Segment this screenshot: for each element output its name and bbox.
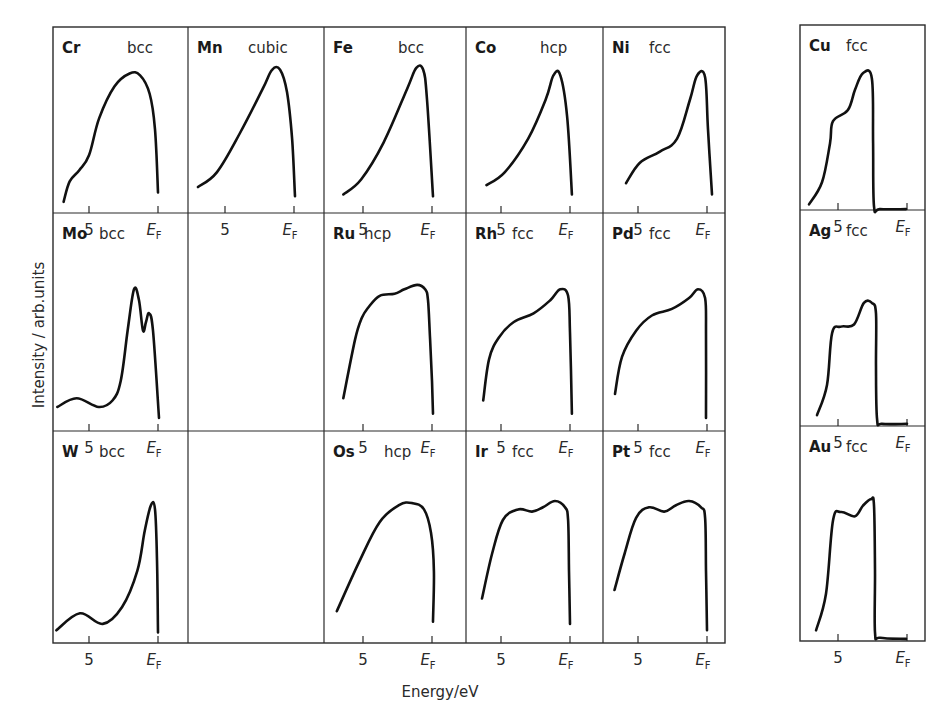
element-label-ag: Ag xyxy=(809,222,831,240)
tick-label-5: 5 xyxy=(833,649,843,667)
spectrum-curve-cu xyxy=(809,70,906,212)
spectrum-curve-co xyxy=(487,71,572,194)
structure-label-ni: fcc xyxy=(649,39,671,57)
tick-label-fermi-subscript: F xyxy=(430,660,436,671)
y-axis-label: Intensity / arb.units xyxy=(30,262,48,409)
structure-label-rh: fcc xyxy=(512,225,534,243)
tick-label-fermi: EF xyxy=(420,221,435,241)
spectrum-curve-rh xyxy=(483,289,572,414)
side-frame xyxy=(800,25,925,641)
tick-label-fermi: EF xyxy=(558,221,573,241)
structure-label-pd: fcc xyxy=(649,225,671,243)
tick-label-fermi-subscript: F xyxy=(905,227,911,238)
element-label-au: Au xyxy=(809,438,831,456)
tick-label-5: 5 xyxy=(633,439,643,457)
tick-label-fermi: EF xyxy=(895,434,910,454)
tick-label-fermi: EF xyxy=(695,439,710,459)
spectrum-curve-os xyxy=(337,503,434,622)
structure-label-pt: fcc xyxy=(649,443,671,461)
tick-label-fermi-subscript: F xyxy=(705,448,711,459)
element-label-mo: Mo xyxy=(62,225,87,243)
tick-label-fermi: EF xyxy=(146,221,161,241)
tick-label-fermi-subscript: F xyxy=(905,443,911,454)
spectrum-curve-ru xyxy=(343,285,433,414)
tick-label-5: 5 xyxy=(833,218,843,236)
tick-label-fermi: EF xyxy=(695,651,710,671)
tick-label-fermi: EF xyxy=(282,221,297,241)
spectrum-curve-fe xyxy=(343,65,433,196)
tick-label-fermi: EF xyxy=(895,218,910,238)
structure-label-cu: fcc xyxy=(846,37,868,55)
tick-label-fermi-subscript: F xyxy=(430,230,436,241)
spectrum-curve-pt xyxy=(615,501,708,630)
tick-label-fermi: EF xyxy=(558,439,573,459)
tick-label-5: 5 xyxy=(633,651,643,669)
element-label-cr: Cr xyxy=(62,39,81,57)
tick-label-5: 5 xyxy=(84,439,94,457)
tick-label-fermi: EF xyxy=(420,651,435,671)
structure-label-ir: fcc xyxy=(512,443,534,461)
element-label-os: Os xyxy=(333,443,355,461)
tick-label-5: 5 xyxy=(358,439,368,457)
structure-label-mo: bcc xyxy=(99,225,125,243)
tick-label-fermi-subscript: F xyxy=(156,230,162,241)
tick-label-fermi-subscript: F xyxy=(156,448,162,459)
tick-label-fermi: EF xyxy=(558,651,573,671)
tick-label-5: 5 xyxy=(496,651,506,669)
tick-label-5: 5 xyxy=(633,221,643,239)
tick-label-fermi-subscript: F xyxy=(430,448,436,459)
tick-label-fermi-subscript: F xyxy=(705,660,711,671)
structure-label-cr: bcc xyxy=(127,39,153,57)
structure-label-os: hcp xyxy=(384,443,411,461)
x-axis-label: Energy/eV xyxy=(401,683,479,701)
structure-label-mn: cubic xyxy=(248,39,288,57)
tick-label-fermi: EF xyxy=(420,439,435,459)
photoemission-spectra-figure: 5EF5EF5EF5EF5EF5EF5EF5EF5EF5EF5EF5EF5EF5… xyxy=(0,0,950,714)
spectrum-curve-cr xyxy=(64,72,158,202)
spectra-curves xyxy=(56,65,907,639)
element-label-ir: Ir xyxy=(475,443,489,461)
spectrum-curve-pd xyxy=(615,289,706,418)
structure-label-fe: bcc xyxy=(398,39,424,57)
element-label-cu: Cu xyxy=(809,37,831,55)
spectrum-curve-w xyxy=(56,502,158,632)
tick-label-fermi-subscript: F xyxy=(156,660,162,671)
element-label-mn: Mn xyxy=(197,39,223,57)
tick-label-5: 5 xyxy=(496,221,506,239)
tick-label-fermi-subscript: F xyxy=(568,660,574,671)
element-label-w: W xyxy=(62,443,79,461)
tick-label-5: 5 xyxy=(220,221,230,239)
spectrum-curve-au xyxy=(816,498,906,640)
tick-label-fermi: EF xyxy=(895,649,910,669)
element-label-pd: Pd xyxy=(612,225,634,243)
element-label-ni: Ni xyxy=(612,39,630,57)
tick-label-fermi-subscript: F xyxy=(292,230,298,241)
element-label-co: Co xyxy=(475,39,496,57)
tick-label-5: 5 xyxy=(358,651,368,669)
spectrum-curve-ni xyxy=(626,71,712,194)
spectrum-curve-mo xyxy=(57,288,159,418)
axis-ticks xyxy=(89,203,907,643)
element-label-fe: Fe xyxy=(333,39,353,57)
tick-label-fermi: EF xyxy=(146,439,161,459)
structure-label-co: hcp xyxy=(540,39,567,57)
spectrum-curve-mn xyxy=(198,67,295,196)
element-label-rh: Rh xyxy=(475,225,497,243)
structure-label-ru: hcp xyxy=(364,225,391,243)
structure-label-au: fcc xyxy=(846,438,868,456)
tick-label-fermi-subscript: F xyxy=(568,448,574,459)
structure-label-ag: fcc xyxy=(846,222,868,240)
tick-label-fermi: EF xyxy=(695,221,710,241)
element-label-pt: Pt xyxy=(612,443,630,461)
structure-label-w: bcc xyxy=(99,443,125,461)
tick-label-fermi-subscript: F xyxy=(568,230,574,241)
tick-label-5: 5 xyxy=(496,439,506,457)
tick-label-5: 5 xyxy=(833,434,843,452)
spectrum-curve-ag xyxy=(817,301,907,426)
tick-label-fermi-subscript: F xyxy=(905,658,911,669)
panel-frames xyxy=(53,25,925,643)
spectrum-curve-ir xyxy=(482,501,570,624)
tick-label-5: 5 xyxy=(84,651,94,669)
tick-label-fermi: EF xyxy=(146,651,161,671)
tick-label-fermi-subscript: F xyxy=(705,230,711,241)
